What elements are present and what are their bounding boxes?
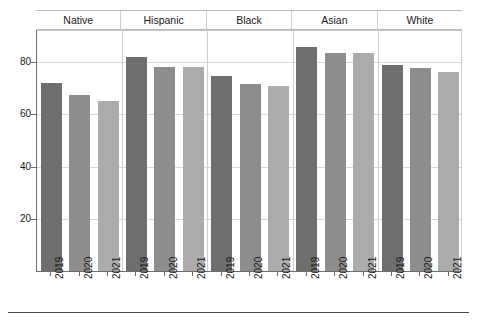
bar-white-2019[interactable] — [382, 65, 403, 271]
clipped-title — [36, 0, 462, 6]
x-tick-mark — [192, 272, 193, 276]
x-tick-mark — [306, 272, 307, 276]
x-tick-label: 2019 — [140, 257, 150, 279]
facet-label-hispanic: Hispanic — [121, 11, 206, 29]
y-tick-label: 80 — [5, 57, 31, 67]
footer-rule — [8, 312, 469, 313]
x-tick-mark — [391, 272, 392, 276]
x-tick-label: 2020 — [169, 257, 179, 279]
facet-label-native: Native — [36, 11, 121, 29]
x-tick-label: 2019 — [55, 257, 65, 279]
bar-asian-2021[interactable] — [353, 53, 374, 271]
bar-native-2019[interactable] — [41, 83, 62, 271]
x-tick-label: 2021 — [112, 257, 122, 279]
x-tick-label: 2020 — [254, 257, 264, 279]
bar-asian-2020[interactable] — [325, 53, 346, 271]
y-axis: 20406080 — [0, 0, 31, 321]
x-tick-mark — [164, 272, 165, 276]
bar-black-2019[interactable] — [211, 76, 232, 271]
bar-black-2021[interactable] — [268, 86, 289, 271]
x-tick-mark — [334, 272, 335, 276]
y-tick-label: 40 — [5, 162, 31, 172]
bar-hispanic-2020[interactable] — [154, 67, 175, 271]
x-tick-mark — [79, 272, 80, 276]
x-tick-label: 2021 — [282, 257, 292, 279]
facet-label-asian: Asian — [292, 11, 377, 29]
x-tick-label: 2019 — [311, 257, 321, 279]
x-tick-label: 2021 — [368, 257, 378, 279]
bar-hispanic-2021[interactable] — [183, 67, 204, 271]
y-tick-label: 20 — [5, 214, 31, 224]
x-tick-mark — [419, 272, 420, 276]
bar-white-2021[interactable] — [438, 72, 459, 271]
bar-hispanic-2019[interactable] — [126, 57, 147, 271]
facet-label-black: Black — [207, 11, 292, 29]
x-tick-mark — [50, 272, 51, 276]
bar-white-2020[interactable] — [410, 68, 431, 271]
x-tick-label: 2019 — [396, 257, 406, 279]
x-tick-label: 2019 — [226, 257, 236, 279]
x-tick-mark — [363, 272, 364, 276]
bar-native-2020[interactable] — [69, 95, 90, 271]
x-tick-label: 2021 — [197, 257, 207, 279]
x-tick-mark — [221, 272, 222, 276]
x-tick-mark — [277, 272, 278, 276]
chart-figure: NativeHispanicBlackAsianWhite 20406080 2… — [0, 0, 477, 321]
x-tick-mark — [135, 272, 136, 276]
facet-label-white: White — [378, 11, 462, 29]
bars-layer — [37, 30, 462, 271]
plot-panel — [36, 30, 462, 272]
x-tick-label: 2020 — [424, 257, 434, 279]
x-tick-mark — [249, 272, 250, 276]
x-tick-mark — [448, 272, 449, 276]
facet-strip-band: NativeHispanicBlackAsianWhite — [36, 10, 462, 30]
y-tick-label: 60 — [5, 109, 31, 119]
x-tick-label: 2021 — [453, 257, 463, 279]
x-tick-label: 2020 — [339, 257, 349, 279]
bar-native-2021[interactable] — [98, 101, 119, 271]
x-tick-label: 2020 — [84, 257, 94, 279]
bar-asian-2019[interactable] — [296, 47, 317, 271]
bar-black-2020[interactable] — [240, 84, 261, 271]
x-tick-mark — [107, 272, 108, 276]
